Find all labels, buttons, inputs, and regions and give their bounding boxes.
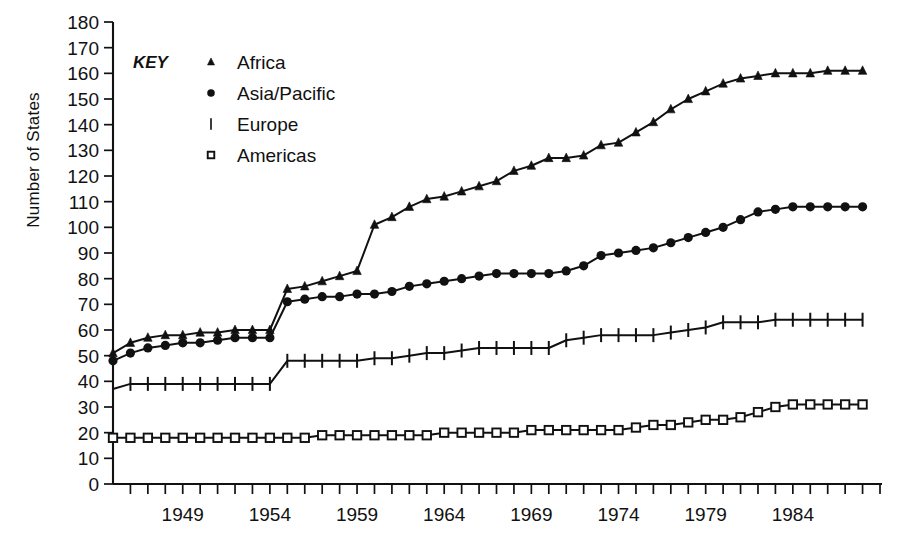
marker-circle	[736, 215, 745, 224]
marker-square	[841, 400, 849, 408]
marker-triangle	[649, 117, 658, 126]
marker-square	[510, 428, 518, 436]
x-tick-label: 1949	[162, 504, 204, 525]
y-tick-label: 20	[78, 423, 99, 444]
marker-circle	[788, 202, 797, 211]
marker-square	[771, 403, 779, 411]
legend-key-label: KEY	[133, 53, 170, 72]
marker-circle	[666, 238, 675, 247]
marker-square	[388, 431, 396, 439]
marker-circle	[719, 223, 728, 232]
marker-circle	[771, 205, 780, 214]
y-tick-label: 120	[67, 166, 99, 187]
marker-circle	[352, 289, 361, 298]
marker-circle	[753, 207, 762, 216]
marker-square	[597, 426, 605, 434]
marker-circle	[492, 269, 501, 278]
marker-circle	[265, 333, 274, 342]
y-tick-label: 140	[67, 115, 99, 136]
marker-circle	[562, 266, 571, 275]
marker-square	[754, 408, 762, 416]
marker-square	[335, 431, 343, 439]
marker-square	[614, 426, 622, 434]
marker-square	[126, 434, 134, 442]
marker-circle	[649, 243, 658, 252]
marker-square	[545, 426, 553, 434]
marker-circle	[579, 261, 588, 270]
marker-square	[649, 421, 657, 429]
marker-circle	[248, 333, 257, 342]
marker-circle	[143, 343, 152, 352]
marker-circle	[684, 233, 693, 242]
marker-circle	[230, 333, 239, 342]
marker-circle	[405, 282, 414, 291]
marker-circle	[858, 202, 867, 211]
marker-square	[492, 428, 500, 436]
marker-circle	[596, 251, 605, 260]
legend-entry-label: Americas	[237, 145, 316, 166]
marker-square	[440, 428, 448, 436]
y-tick-label: 100	[67, 217, 99, 238]
marker-square	[318, 431, 326, 439]
series-line	[113, 71, 863, 353]
marker-circle	[387, 287, 396, 296]
marker-triangle	[353, 266, 362, 275]
x-tick-label: 1964	[423, 504, 466, 525]
x-tick-label: 1954	[249, 504, 292, 525]
x-tick-label: 1984	[772, 504, 815, 525]
y-tick-label: 180	[67, 12, 99, 33]
series-asia-pacific	[108, 202, 867, 365]
y-tick-label: 90	[78, 243, 99, 264]
marker-square	[283, 434, 291, 442]
legend-marker-square-icon	[208, 152, 215, 159]
marker-square	[405, 431, 413, 439]
y-tick-label: 70	[78, 294, 99, 315]
marker-square	[736, 413, 744, 421]
legend-marker-triangle-icon	[208, 58, 215, 65]
marker-circle	[614, 248, 623, 257]
marker-circle	[370, 289, 379, 298]
x-tick-label: 1959	[336, 504, 378, 525]
marker-square	[266, 434, 274, 442]
marker-circle	[126, 349, 135, 358]
marker-circle	[457, 274, 466, 283]
marker-circle	[509, 269, 518, 278]
y-tick-label: 160	[67, 63, 99, 84]
series-line	[113, 404, 863, 437]
series-americas	[109, 400, 867, 442]
y-tick-label: 60	[78, 320, 99, 341]
y-tick-label: 80	[78, 269, 99, 290]
y-tick-label: 10	[78, 448, 99, 469]
marker-circle	[108, 356, 117, 365]
marker-square	[231, 434, 239, 442]
series-line	[113, 320, 863, 389]
y-tick-label: 150	[67, 89, 99, 110]
marker-square	[667, 421, 675, 429]
marker-square	[423, 431, 431, 439]
marker-circle	[440, 277, 449, 286]
data-series-group	[108, 66, 867, 442]
marker-square	[632, 423, 640, 431]
marker-circle	[474, 272, 483, 281]
chart-container: 0102030405060708090100110120130140150160…	[0, 0, 903, 554]
marker-circle	[806, 202, 815, 211]
series-africa	[109, 66, 867, 357]
marker-circle	[631, 246, 640, 255]
marker-square	[858, 400, 866, 408]
marker-square	[248, 434, 256, 442]
legend-entry-label: Europe	[237, 114, 298, 135]
chart-legend: KEYAfricaAsia/PacificEuropeAmericas	[133, 52, 335, 166]
x-axis-ticks: 19491954195919641969197419791984	[130, 484, 880, 525]
legend-marker-circle-icon	[207, 89, 215, 97]
y-tick-label: 0	[88, 474, 99, 495]
marker-square	[562, 426, 570, 434]
legend-entry-label: Africa	[237, 52, 286, 73]
marker-circle	[823, 202, 832, 211]
marker-square	[161, 434, 169, 442]
marker-circle	[161, 341, 170, 350]
y-tick-label: 130	[67, 140, 99, 161]
marker-square	[213, 434, 221, 442]
y-tick-label: 30	[78, 397, 99, 418]
marker-circle	[283, 297, 292, 306]
marker-circle	[213, 336, 222, 345]
